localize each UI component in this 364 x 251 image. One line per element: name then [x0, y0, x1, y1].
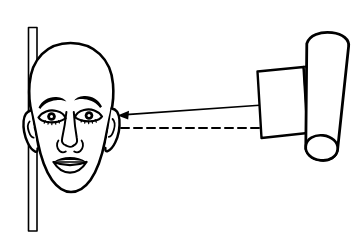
device-lens-housing	[258, 67, 308, 138]
device-lens-opening	[306, 135, 338, 160]
right-eye-pupil-highlight	[88, 114, 91, 117]
head-scanning-diagram: Head scanning measurement diagram Line d…	[0, 0, 364, 251]
left-eye-pupil-highlight	[50, 115, 53, 118]
diagram-canvas: Head scanning measurement diagram Line d…	[0, 0, 364, 251]
